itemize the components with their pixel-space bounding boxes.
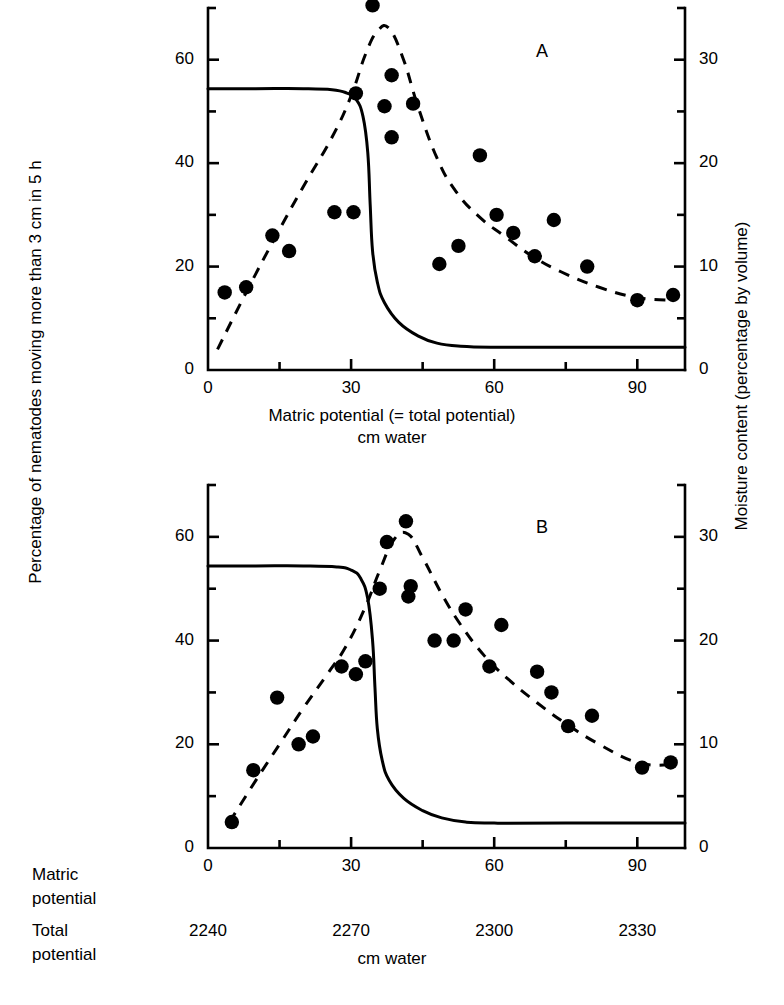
matric-potential-label-line1: Matric <box>32 865 78 885</box>
x-tick-label: 0 <box>203 378 212 398</box>
panel-a-xtitle-line1: Matric potential (= total potential) <box>0 406 784 426</box>
matric-potential-label-line2: potential <box>32 889 96 909</box>
data-points <box>217 0 680 307</box>
x-tick-label: 90 <box>628 856 647 876</box>
y2-tick-label: 20 <box>699 630 718 650</box>
x-tick-label: 30 <box>342 856 361 876</box>
panel-b-letter: B <box>536 517 548 538</box>
figure-root: Percentage of nematodes moving more than… <box>0 0 784 1005</box>
total-potential-tick-label: 2240 <box>189 921 227 941</box>
data-points <box>225 514 678 829</box>
panel-a-xtitle-line2: cm water <box>0 428 784 448</box>
y-tick-label: 0 <box>185 359 194 379</box>
total-potential-tick-label: 2270 <box>332 921 370 941</box>
x-tick-label: 0 <box>203 856 212 876</box>
y2-tick-label: 0 <box>699 359 708 379</box>
y-tick-label: 0 <box>185 837 194 857</box>
total-potential-label-line1: Total <box>32 921 68 941</box>
y2-tick-label: 30 <box>699 49 718 69</box>
x-tick-label: 60 <box>485 378 504 398</box>
y-tick-label: 60 <box>175 526 194 546</box>
panel-b-plot <box>0 470 784 890</box>
y-tick-label: 20 <box>175 256 194 276</box>
y-tick-label: 40 <box>175 630 194 650</box>
total-potential-tick-label: 2330 <box>618 921 656 941</box>
x-tick-label: 30 <box>342 378 361 398</box>
panel-a-plot <box>0 0 784 440</box>
total-potential-tick-label: 2300 <box>475 921 513 941</box>
y2-tick-label: 0 <box>699 837 708 857</box>
y2-tick-label: 30 <box>699 526 718 546</box>
y-tick-label: 60 <box>175 49 194 69</box>
y2-tick-label: 10 <box>699 256 718 276</box>
panel-a: A 020406001020300306090 <box>0 0 784 440</box>
bottom-xtitle: cm water <box>0 949 784 969</box>
x-tick-label: 90 <box>628 378 647 398</box>
y2-tick-label: 20 <box>699 152 718 172</box>
y2-tick-label: 10 <box>699 733 718 753</box>
y-tick-label: 40 <box>175 152 194 172</box>
x-tick-label: 60 <box>485 856 504 876</box>
panel-b: B 020406001020300306090 <box>0 470 784 890</box>
y-tick-label: 20 <box>175 733 194 753</box>
panel-a-letter: A <box>536 41 548 62</box>
